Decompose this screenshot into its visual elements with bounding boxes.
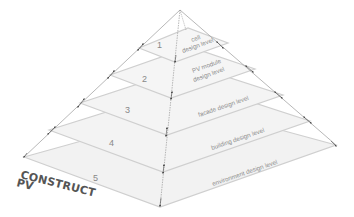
brand-line-2: PV: [15, 176, 35, 193]
level-5-number: 5: [93, 173, 98, 183]
level-1-number: 1: [157, 40, 162, 50]
level-3-number: 3: [125, 105, 130, 115]
level-2-number: 2: [142, 74, 147, 84]
construct-pv-pyramid-diagram: 1 2 3 4 5 cell design level PV module de…: [0, 0, 354, 217]
level-4-number: 4: [109, 138, 114, 148]
